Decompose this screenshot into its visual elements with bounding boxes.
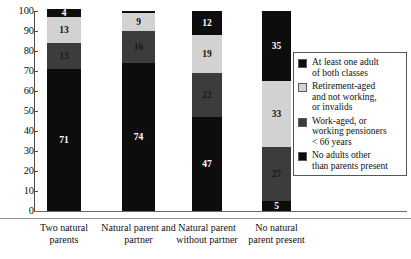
bar-segment-work-aged: 13 bbox=[47, 43, 81, 69]
y-axis-tick-label-wrap: 60 bbox=[0, 86, 34, 96]
legend-item-label: No adults otherthan parents present bbox=[312, 150, 388, 171]
y-axis-tick-label: 100 bbox=[6, 6, 34, 16]
bar-segment-value-label: 16 bbox=[134, 43, 144, 52]
y-axis-tick-label-wrap: 90 bbox=[0, 26, 34, 36]
bar-no-natural-parent-present: 3533275 bbox=[262, 11, 291, 211]
legend-item-label-line: than parents present bbox=[312, 161, 388, 172]
chart-legend: At least one adultof both classesRetirem… bbox=[293, 52, 407, 176]
legend-swatch-icon bbox=[298, 152, 307, 161]
bar-segment-both-classes: 35 bbox=[262, 11, 291, 81]
y-axis-tick-label-wrap: 20 bbox=[0, 166, 34, 176]
y-axis-tick-label: 0 bbox=[6, 206, 34, 216]
legend-item-label-line: and not working, bbox=[312, 92, 377, 103]
y-axis-tick-mark bbox=[34, 151, 38, 152]
legend-item-label: Retirement-agedand not working,or invali… bbox=[312, 81, 377, 113]
y-axis-tick-label: 40 bbox=[6, 126, 34, 136]
y-axis-tick-label: 90 bbox=[6, 26, 34, 36]
category-label-line1: Two natural bbox=[22, 222, 106, 234]
bar-segment-value-label: 47 bbox=[202, 160, 212, 169]
y-axis-tick-label: 30 bbox=[6, 146, 34, 156]
y-axis-tick-mark bbox=[34, 191, 38, 192]
y-axis-tick-label-wrap: 10 bbox=[0, 186, 34, 196]
y-axis-tick-label-wrap: 100 bbox=[0, 6, 34, 16]
legend-item-label-line: < 66 years bbox=[312, 137, 387, 148]
y-axis-tick-label: 10 bbox=[6, 186, 34, 196]
legend-item-label-line: working pensioners bbox=[312, 126, 387, 137]
bar-segment-retirement-aged: 19 bbox=[192, 35, 222, 73]
y-axis-tick-label-wrap: 0 bbox=[0, 206, 34, 216]
bar-segment-value-label: 9 bbox=[136, 18, 141, 27]
bar-segment-retirement-aged: 13 bbox=[47, 17, 81, 43]
bar-two-natural-parents: 4131371 bbox=[47, 9, 81, 211]
y-axis-tick-label: 60 bbox=[6, 86, 34, 96]
bar-segment-work-aged: 16 bbox=[122, 31, 155, 63]
legend-item-label-line: At least one adult bbox=[312, 57, 379, 68]
category-label-two-natural-parents: Two naturalparents bbox=[22, 222, 106, 245]
y-axis-tick-label: 80 bbox=[6, 46, 34, 56]
category-separator-line bbox=[0, 218, 411, 219]
legend-item-label-line: or invalids bbox=[312, 102, 377, 113]
bar-segment-value-label: 12 bbox=[202, 19, 212, 28]
legend-item[interactable]: Work-aged, orworking pensioners< 66 year… bbox=[298, 116, 403, 148]
y-axis-tick-mark bbox=[34, 31, 38, 32]
bar-segment-work-aged: 27 bbox=[262, 147, 291, 201]
bar-segment-value-label: 13 bbox=[59, 26, 69, 35]
legend-swatch-icon bbox=[298, 83, 307, 92]
bar-segment-no-other-adults: 47 bbox=[192, 117, 222, 211]
legend-item-label-line: Work-aged, or bbox=[312, 116, 387, 127]
y-axis-tick-label: 20 bbox=[6, 166, 34, 176]
legend-item-label: At least one adultof both classes bbox=[312, 57, 379, 78]
legend-item-label-line: of both classes bbox=[312, 68, 379, 79]
y-axis-tick-mark bbox=[34, 11, 38, 12]
legend-item[interactable]: At least one adultof both classes bbox=[298, 57, 403, 78]
y-axis-tick-label-wrap: 80 bbox=[0, 46, 34, 56]
y-axis-tick-mark bbox=[34, 51, 38, 52]
bar-segment-no-other-adults: 5 bbox=[262, 201, 291, 211]
y-axis-tick-label-wrap: 70 bbox=[0, 66, 34, 76]
bar-natural-parent-without-partner: 12192247 bbox=[192, 11, 222, 211]
y-axis-tick-label-wrap: 50 bbox=[0, 106, 34, 116]
bar-natural-parent-and-partner: 91674 bbox=[122, 11, 155, 211]
y-axis-tick-mark bbox=[34, 71, 38, 72]
bar-segment-value-label: 27 bbox=[272, 170, 282, 179]
bar-segment-value-label: 33 bbox=[272, 110, 282, 119]
legend-swatch-icon bbox=[298, 118, 307, 127]
legend-item-label-line: No adults other bbox=[312, 150, 388, 161]
bar-segment-both-classes: 12 bbox=[192, 11, 222, 35]
y-axis-tick-mark bbox=[34, 131, 38, 132]
bar-segment-retirement-aged: 33 bbox=[262, 81, 291, 147]
bar-segment-value-label: 13 bbox=[59, 52, 69, 61]
bar-segment-value-label: 22 bbox=[202, 91, 212, 100]
bar-segment-value-label: 35 bbox=[272, 42, 282, 51]
category-label-line2: parents bbox=[22, 234, 106, 246]
legend-item-label-line: Retirement-aged bbox=[312, 81, 377, 92]
y-axis-tick-label-wrap: 40 bbox=[0, 126, 34, 136]
bar-segment-value-label: 19 bbox=[202, 50, 212, 59]
y-axis-tick-mark bbox=[34, 91, 38, 92]
legend-swatch-icon bbox=[298, 59, 307, 68]
stacked-bar-chart: 1009080706050403020100 41313719167412192… bbox=[0, 0, 411, 259]
bar-segment-retirement-aged: 9 bbox=[122, 13, 155, 31]
bar-segment-value-label: 71 bbox=[59, 136, 69, 145]
bar-segment-no-other-adults: 71 bbox=[47, 69, 81, 211]
bar-segment-value-label: 74 bbox=[134, 133, 144, 142]
x-axis-baseline bbox=[34, 211, 407, 212]
y-axis-tick-label: 50 bbox=[6, 106, 34, 116]
y-axis-tick-label-wrap: 30 bbox=[0, 146, 34, 156]
bar-segment-no-other-adults: 74 bbox=[122, 63, 155, 211]
y-axis-tick-mark bbox=[34, 171, 38, 172]
category-label-no-natural-parent-present: No naturalparent present bbox=[235, 222, 319, 245]
legend-item[interactable]: Retirement-agedand not working,or invali… bbox=[298, 81, 403, 113]
legend-item-label: Work-aged, orworking pensioners< 66 year… bbox=[312, 116, 387, 148]
category-label-line1: No natural bbox=[235, 222, 319, 234]
bar-segment-work-aged: 22 bbox=[192, 73, 222, 117]
bar-segment-value-label: 5 bbox=[274, 202, 279, 211]
y-axis-tick-mark bbox=[34, 111, 38, 112]
bar-segment-both-classes: 4 bbox=[47, 9, 81, 17]
category-label-line2: parent present bbox=[235, 234, 319, 246]
legend-item[interactable]: No adults otherthan parents present bbox=[298, 150, 403, 171]
y-axis-tick-label: 70 bbox=[6, 66, 34, 76]
